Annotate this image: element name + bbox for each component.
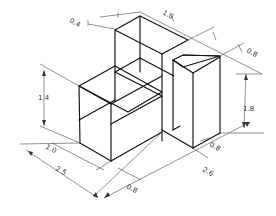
dim-label-right-total: 2.6 [201, 166, 215, 179]
lower-block-left-vertical [79, 86, 80, 143]
object-edges [79, 16, 220, 161]
tall-block-mid-edge3 [115, 72, 162, 96]
isometric-drawing: 0.4 1.0 0.8 1.4 1.8 0.8 1.0 2.5 0.8 2.6 [0, 0, 276, 216]
right-block-top-right-edge [193, 57, 220, 73]
dim-label-right-height: 1.8 [243, 105, 254, 113]
lower-block-back-diag [79, 100, 115, 120]
right-block-bottom-back [173, 126, 180, 130]
dim-label-front-bottom-offset: 0.8 [125, 183, 139, 195]
dim-label-left-height: 1.4 [38, 94, 50, 102]
lower-block-bottom-right [111, 132, 162, 161]
dim-label-right-inner-depth: 0.8 [208, 141, 222, 153]
right-block-bottom-left-edge [162, 130, 193, 148]
lower-block-front-top [79, 86, 111, 104]
tall-block-top-face [115, 16, 188, 54]
tall-block-mid-edge [115, 58, 140, 72]
lower-block-bottom-left [80, 143, 111, 161]
tall-block-mid-edge2 [140, 58, 174, 76]
dim-label-right-depth-top: 0.8 [245, 47, 259, 59]
dim-label-front-total: 2.5 [54, 165, 68, 177]
dimension-labels: 0.4 1.0 0.8 1.4 1.8 0.8 1.0 2.5 0.8 2.6 [38, 9, 259, 195]
right-block-top-front-edge [173, 60, 193, 73]
dim-label-top-offset: 0.4 [68, 17, 82, 30]
right-block-top-back [183, 55, 220, 56]
